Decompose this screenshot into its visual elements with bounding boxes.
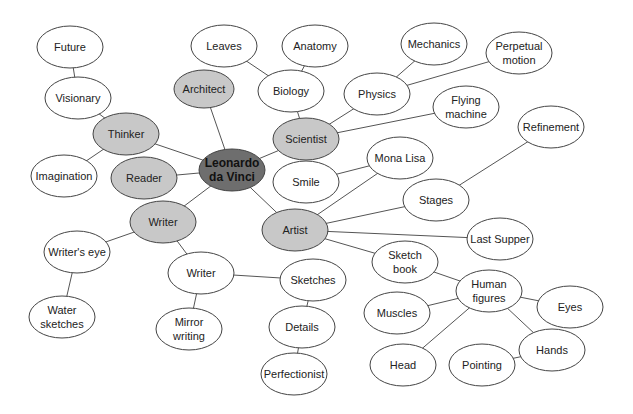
node-hands: Hands — [519, 329, 585, 371]
node-label: Imagination — [36, 170, 93, 182]
node-label: Future — [54, 41, 86, 53]
node-label: Human — [471, 278, 506, 290]
node-label: Water — [48, 304, 77, 316]
node-writerseye: Writer's eye — [44, 231, 110, 273]
node-flying: Flyingmachine — [433, 86, 499, 128]
node-label: Last Supper — [470, 233, 530, 245]
node-label: Refinement — [523, 121, 579, 133]
node-label: motion — [502, 54, 535, 66]
nodes-layer: Leonardoda VinciFutureVisionaryThinkerIm… — [29, 23, 603, 395]
node-ellipse — [456, 270, 522, 312]
node-leonardo: Leonardoda Vinci — [199, 149, 265, 191]
node-label: Hands — [536, 344, 568, 356]
node-humanfigures: Humanfigures — [456, 270, 522, 312]
node-refinement: Refinement — [518, 106, 584, 148]
node-architect: Architect — [174, 70, 234, 108]
node-water: Watersketches — [29, 296, 95, 338]
node-label: Head — [390, 359, 416, 371]
node-label: da Vinci — [209, 170, 255, 184]
node-thinker: Thinker — [93, 113, 159, 155]
node-reader: Reader — [111, 157, 177, 199]
node-label: Pointing — [462, 359, 502, 371]
node-artist: Artist — [262, 209, 328, 251]
node-label: Leaves — [206, 40, 242, 52]
node-ellipse — [29, 296, 95, 338]
node-label: Stages — [419, 194, 454, 206]
node-label: Perfectionist — [264, 368, 325, 380]
node-imagination: Imagination — [31, 155, 97, 197]
node-ellipse — [433, 86, 499, 128]
node-leaves: Leaves — [191, 25, 257, 67]
node-eyes: Eyes — [537, 286, 603, 328]
node-label: Visionary — [55, 92, 101, 104]
node-label: Sketch — [388, 249, 422, 261]
node-label: Thinker — [108, 128, 145, 140]
node-label: Architect — [183, 83, 226, 95]
node-head: Head — [370, 344, 436, 386]
node-label: Anatomy — [293, 40, 337, 52]
node-label: Scientist — [285, 133, 327, 145]
node-sketchbook: Sketchbook — [372, 241, 438, 283]
node-future: Future — [37, 26, 103, 68]
node-perfectionist: Perfectionist — [261, 353, 327, 395]
node-label: Details — [285, 321, 319, 333]
node-anatomy: Anatomy — [282, 25, 348, 67]
node-details: Details — [269, 306, 335, 348]
node-pointing: Pointing — [449, 344, 515, 386]
node-label: Leonardo — [205, 156, 260, 170]
node-biology: Biology — [258, 70, 324, 112]
node-label: Perpetual — [495, 40, 542, 52]
node-label: book — [393, 263, 417, 275]
node-ellipse — [486, 32, 552, 74]
node-label: Mona Lisa — [375, 152, 427, 164]
node-label: Smile — [292, 176, 320, 188]
node-mechanics: Mechanics — [401, 23, 467, 65]
node-monalisa: Mona Lisa — [367, 137, 433, 179]
node-label: writing — [172, 330, 205, 342]
node-label: Writer — [148, 216, 177, 228]
node-label: Reader — [126, 172, 162, 184]
node-label: machine — [445, 108, 487, 120]
node-label: Muscles — [377, 307, 418, 319]
node-ellipse — [372, 241, 438, 283]
node-label: Physics — [358, 88, 396, 100]
node-sketches: Sketches — [280, 259, 346, 301]
node-label: Flying — [451, 94, 480, 106]
mind-map-diagram: Leonardoda VinciFutureVisionaryThinkerIm… — [0, 0, 633, 414]
node-lastsupper: Last Supper — [467, 218, 533, 260]
node-stages: Stages — [403, 179, 469, 221]
node-label: Biology — [273, 85, 310, 97]
node-label: Eyes — [558, 301, 583, 313]
node-writer1: Writer — [130, 201, 196, 243]
node-mirror: Mirrorwriting — [156, 308, 222, 350]
node-ellipse — [156, 308, 222, 350]
node-writer2: Writer — [168, 252, 234, 294]
node-muscles: Muscles — [364, 292, 430, 334]
node-label: Mirror — [175, 316, 204, 328]
node-label: sketches — [40, 318, 84, 330]
node-label: figures — [472, 292, 506, 304]
node-scientist: Scientist — [273, 118, 339, 160]
node-label: Artist — [282, 224, 307, 236]
node-visionary: Visionary — [45, 77, 111, 119]
node-label: Writer — [186, 267, 215, 279]
node-label: Mechanics — [408, 38, 461, 50]
node-label: Sketches — [290, 274, 336, 286]
node-physics: Physics — [344, 73, 410, 115]
node-label: Writer's eye — [48, 246, 106, 258]
node-perpetual: Perpetualmotion — [486, 32, 552, 74]
node-smile: Smile — [273, 161, 339, 203]
